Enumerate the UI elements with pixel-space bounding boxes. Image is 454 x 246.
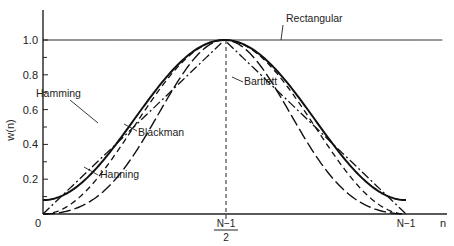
y-ticks <box>43 40 48 197</box>
hamming-pointer <box>70 100 98 123</box>
y-tick-label: 1.0 <box>23 34 38 46</box>
bartlett-pointer <box>232 77 243 82</box>
y-tick-label: 0.8 <box>23 69 38 81</box>
hamming-label: Hamming <box>36 87 81 99</box>
blackman-label: Blackman <box>138 126 184 138</box>
x-tick-end: N−1 <box>397 218 416 229</box>
curves <box>43 40 442 214</box>
hanning-label: Hanning <box>100 168 139 180</box>
x-tick-mid-den: 2 <box>223 232 229 243</box>
x-tick-origin: 0 <box>35 217 41 229</box>
hamming-curve <box>43 40 406 200</box>
y-tick-label: 0.2 <box>23 173 38 185</box>
bartlett-label: Bartlett <box>244 75 277 87</box>
hanning-curve <box>43 40 406 214</box>
x-axis-label: n <box>440 217 446 229</box>
y-tick-label: 0.4 <box>23 138 38 150</box>
rectangular-pointer <box>281 25 283 40</box>
y-tick-labels: 0.20.40.60.81.0 <box>23 34 38 185</box>
window-functions-chart: 0.20.40.60.81.0 w(n) 0 N−1 2 N−1 n Recta… <box>0 0 454 246</box>
blackman-curve <box>43 40 406 214</box>
x-tick-mid-num: N−1 <box>217 218 236 229</box>
bartlett-curve <box>43 40 406 214</box>
rectangular-label: Rectangular <box>286 12 343 24</box>
y-tick-label: 0.6 <box>23 104 38 116</box>
axes <box>43 10 447 222</box>
y-axis-label: w(n) <box>4 119 16 141</box>
